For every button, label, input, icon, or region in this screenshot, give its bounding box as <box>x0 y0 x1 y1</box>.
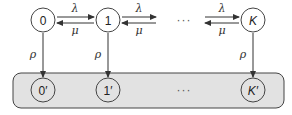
state-1-label: 1 <box>105 14 112 28</box>
absorb-transition-K: ρ <box>239 33 253 77</box>
transition-0-1: λ μ <box>57 2 94 37</box>
state-1-prime: 1′ <box>96 78 120 102</box>
state-0: 0 <box>31 8 55 32</box>
state-K-label: K <box>249 14 258 28</box>
rho-label: ρ <box>94 48 102 61</box>
state-K-prime: K′ <box>241 78 265 102</box>
mu-label: μ <box>135 24 142 37</box>
mu-label: μ <box>218 24 225 37</box>
state-1-prime-label: 1′ <box>104 84 114 98</box>
absorb-transition-0: ρ <box>29 33 43 77</box>
rho-label: ρ <box>29 48 37 61</box>
state-0-prime-label: 0′ <box>39 84 49 98</box>
transition-1-next: λ μ <box>122 2 156 37</box>
lambda-label: λ <box>71 2 79 15</box>
lambda-label: λ <box>218 2 226 15</box>
state-1: 1 <box>96 8 120 32</box>
lambda-label: λ <box>135 2 143 15</box>
mu-label: μ <box>71 24 78 37</box>
state-0-prime: 0′ <box>31 78 55 102</box>
rho-label: ρ <box>239 48 247 61</box>
ellipsis-top: ··· <box>177 13 192 27</box>
transition-prev-K: λ μ <box>205 2 239 37</box>
state-K-prime-label: K′ <box>248 84 259 98</box>
markov-chain-diagram: 0 1 K λ μ λ μ ··· λ μ ρ ρ ρ <box>0 0 292 115</box>
state-0-label: 0 <box>40 14 47 28</box>
absorb-transition-1: ρ <box>94 33 108 77</box>
state-K: K <box>241 8 265 32</box>
ellipsis-bottom: ··· <box>177 83 192 97</box>
